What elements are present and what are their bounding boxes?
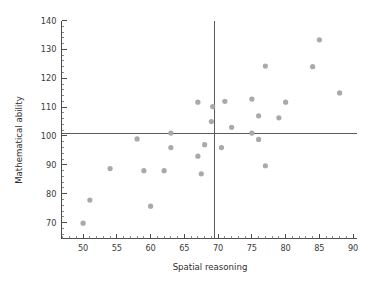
- x-tick-label: 50: [78, 243, 88, 253]
- y-tick-label: 90: [46, 160, 56, 170]
- x-tick-label: 70: [213, 243, 223, 253]
- x-axis-title: Spatial reasoning: [173, 262, 248, 272]
- x-tick-label: 75: [247, 243, 257, 253]
- data-point: [195, 100, 200, 105]
- data-point: [249, 131, 254, 136]
- data-point: [195, 154, 200, 159]
- data-point: [276, 115, 281, 120]
- data-point: [317, 37, 322, 42]
- data-point: [148, 204, 153, 209]
- data-point: [135, 136, 140, 141]
- y-tick-label: 110: [41, 102, 57, 112]
- data-point: [256, 113, 261, 118]
- x-tick-label: 65: [179, 243, 189, 253]
- y-tick-label: 100: [41, 131, 57, 141]
- data-point: [168, 145, 173, 150]
- x-tick-label: 60: [145, 243, 155, 253]
- data-point: [210, 104, 215, 109]
- y-axis-tick-labels: 708090100110120130140: [41, 16, 57, 228]
- x-tick-label: 55: [112, 243, 122, 253]
- data-point: [199, 171, 204, 176]
- data-point: [283, 100, 288, 105]
- data-point: [202, 142, 207, 147]
- data-point: [263, 163, 268, 168]
- x-axis-tick-labels: 505560657075808590: [78, 243, 358, 253]
- axes-group: [62, 21, 357, 239]
- x-tick-label: 85: [314, 243, 324, 253]
- y-tick-label: 130: [41, 44, 57, 54]
- data-point: [337, 90, 342, 95]
- y-tick-label: 140: [41, 16, 57, 26]
- data-point: [219, 145, 224, 150]
- data-point: [263, 64, 268, 69]
- data-point: [141, 168, 146, 173]
- scatter-plot-figure: 505560657075808590 708090100110120130140…: [0, 0, 367, 281]
- y-tick-label: 80: [46, 189, 56, 199]
- reference-lines-group: [62, 21, 357, 239]
- data-point: [108, 166, 113, 171]
- y-tick-label: 120: [41, 73, 57, 83]
- axis-ticks-group: [62, 21, 354, 239]
- x-tick-label: 90: [348, 243, 358, 253]
- data-point: [310, 64, 315, 69]
- data-point: [249, 96, 254, 101]
- data-point: [229, 125, 234, 130]
- data-point: [168, 131, 173, 136]
- data-point: [256, 137, 261, 142]
- plot-canvas: 505560657075808590 708090100110120130140…: [0, 0, 367, 281]
- data-point: [222, 99, 227, 104]
- data-point: [87, 197, 92, 202]
- data-points-group: [81, 37, 343, 226]
- y-axis-title: Mathematical ability: [14, 96, 24, 184]
- y-tick-label: 70: [46, 218, 56, 228]
- x-tick-label: 80: [280, 243, 290, 253]
- data-point: [162, 168, 167, 173]
- data-point: [209, 119, 214, 124]
- data-point: [81, 221, 86, 226]
